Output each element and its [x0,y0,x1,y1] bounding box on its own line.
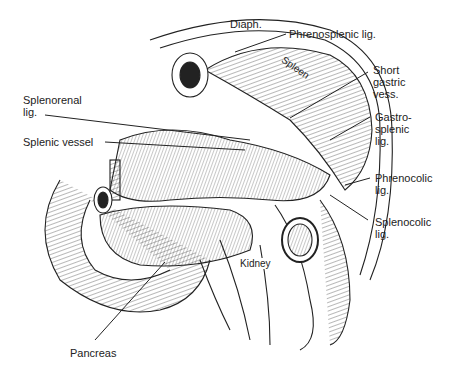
leader-splenocolic [330,195,368,220]
label-phrenocolic: Phrenocolic lig. [375,172,432,196]
label-splenorenal: Splenorenal lig. [23,94,82,118]
label-splenic-vessel: Splenic vessel [23,136,93,148]
label-short-gastric: Short gastric vess. [373,64,405,100]
label-diaph: Diaph. [230,18,262,30]
label-splenocolic: Splenocolic lig. [375,216,431,240]
label-pancreas: Pancreas [70,347,116,359]
label-gastrosplenic: Gastro- splenic lig. [375,111,412,147]
label-phrenosplenic: Phrenosplenic lig. [289,28,376,40]
label-kidney: Kidney [240,258,271,269]
pancreas-shape [100,206,253,266]
